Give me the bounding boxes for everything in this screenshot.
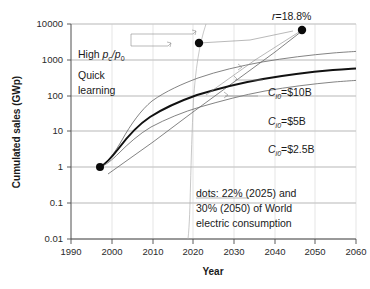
chart-figure: 10000 1000 100 10 1 0.1 0.01 1990 2000 2…	[0, 0, 370, 289]
annotation-ci0-val-10b: =$10B	[281, 86, 312, 98]
x-tick-label-2020: 2020	[182, 246, 203, 257]
annotation-dots-note-line1: dots: 22% (2025) and	[196, 187, 297, 199]
y-tick-label-10000: 10000	[37, 18, 63, 29]
y-tick-label-10: 10	[52, 125, 63, 136]
x-tick-label-2060: 2060	[345, 246, 366, 257]
x-tick-label-1990: 1990	[60, 246, 81, 257]
annotation-dots-note-line2: 30% (2050) of World	[196, 202, 292, 214]
x-tick-label-2050: 2050	[304, 246, 325, 257]
x-tick-label-2000: 2000	[101, 246, 122, 257]
annotation-rate-value: =18.8%	[276, 10, 312, 22]
annotation-ci0-val-2p5b: =$2.5B	[281, 143, 315, 155]
dot-start-1997	[96, 163, 104, 171]
annotation-rate-label: r=18.8%	[272, 10, 311, 22]
annotation-ci0-10b: Ci0=$10B	[268, 86, 312, 100]
x-tick-label-2010: 2010	[142, 246, 163, 257]
chart-svg: 10000 1000 100 10 1 0.1 0.01 1990 2000 2…	[0, 0, 370, 289]
annotation-high-prefix: High	[78, 48, 103, 60]
annotation-quick-line2: learning	[78, 84, 116, 96]
y-tick-label-0.01: 0.01	[45, 233, 64, 244]
annotation-dots-note-line3: electric consumption	[196, 217, 292, 229]
y-tick-label-1: 1	[58, 161, 63, 172]
y-axis-title: Cumulated sales (GWp)	[11, 76, 22, 188]
x-axis-title: Year	[202, 266, 223, 277]
y-tick-label-1000: 1000	[42, 54, 63, 65]
annotation-ci0-5b: Ci0=$5B	[268, 115, 306, 129]
annotation-quick-line1: Quick	[78, 69, 106, 81]
annotation-ci0-2p5b: Ci0=$2.5B	[268, 143, 315, 157]
y-tick-label-0.1: 0.1	[50, 197, 63, 208]
annotation-high-pc-p0: High pc/p0	[78, 48, 125, 62]
dot-2050-30-percent	[298, 26, 306, 34]
x-tick-label-2030: 2030	[223, 246, 244, 257]
dot-2025-22-percent	[195, 39, 203, 47]
x-tick-label-2040: 2040	[264, 246, 285, 257]
y-tick-label-100: 100	[47, 90, 63, 101]
annotation-sub-0: 0	[121, 55, 125, 62]
annotation-ci0-val-5b: =$5B	[281, 115, 306, 127]
